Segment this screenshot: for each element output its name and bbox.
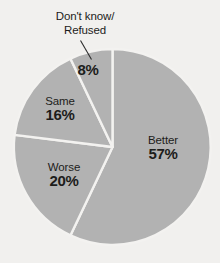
slice-label-better: Better 57% — [128, 134, 198, 163]
slice-label-dont-know-refused-line2: Refused — [33, 24, 137, 38]
slice-label-same: Same 16% — [27, 95, 93, 124]
slice-value-dont-know-refused-text: 8% — [60, 62, 116, 78]
slice-value-dont-know-refused: 8% — [60, 62, 116, 78]
slice-label-worse: Worse 20% — [27, 161, 101, 190]
slice-value-worse-text: 20% — [27, 173, 101, 189]
pie-graphic — [0, 0, 220, 263]
slice-label-dont-know-refused-line1: Don't know/ — [33, 10, 137, 24]
slice-value-better-text: 57% — [128, 146, 198, 162]
slice-value-same-text: 16% — [27, 107, 93, 123]
slice-label-dont-know-refused: Don't know/ Refused — [33, 10, 137, 37]
pie-chart: Don't know/ Refused 8% Same 16% Worse 20… — [0, 0, 220, 263]
